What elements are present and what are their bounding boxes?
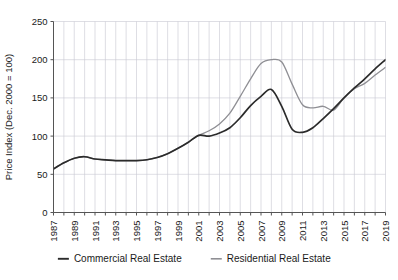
x-tick-label: 2001: [193, 221, 204, 242]
y-tick-label: 200: [32, 54, 48, 65]
y-tick-label: 250: [32, 16, 48, 27]
x-axis-ticks: 1987198919911993199519971999200120032005…: [48, 213, 391, 242]
x-tick-label: 2009: [276, 221, 287, 242]
x-tick-label: 2015: [339, 221, 350, 242]
y-tick-label: 100: [32, 131, 48, 142]
y-tick-label: 150: [32, 92, 48, 103]
y-axis-ticks: 050100150200250: [32, 16, 54, 218]
y-axis-title: Price Index (Dec. 2000 = 100): [3, 54, 14, 180]
x-tick-label: 2003: [214, 221, 225, 242]
y-tick-label: 50: [37, 169, 48, 180]
legend-item[interactable]: Residential Real Estate: [211, 253, 331, 264]
x-tick-label: 2007: [256, 221, 267, 242]
x-tick-label: 2019: [380, 221, 391, 242]
line-chart: 0501001502002501987198919911993199519971…: [0, 0, 398, 280]
legend-label: Residential Real Estate: [227, 253, 331, 264]
x-tick-label: 1987: [48, 221, 59, 242]
x-tick-label: 1999: [173, 221, 184, 242]
x-tick-label: 1993: [110, 221, 121, 242]
grid-lines: [54, 22, 386, 213]
x-tick-label: 2013: [318, 221, 329, 242]
chart-legend: Commercial Real EstateResidential Real E…: [58, 253, 331, 264]
legend-item[interactable]: Commercial Real Estate: [58, 253, 182, 264]
x-tick-label: 1989: [69, 221, 80, 242]
x-tick-label: 2011: [297, 221, 308, 241]
y-tick-label: 0: [42, 207, 47, 218]
x-tick-label: 1997: [152, 221, 163, 242]
legend-label: Commercial Real Estate: [74, 253, 182, 264]
x-tick-label: 1991: [90, 221, 101, 242]
chart-container: 0501001502002501987198919911993199519971…: [0, 0, 398, 280]
x-tick-label: 1995: [131, 221, 142, 242]
x-tick-label: 2005: [235, 221, 246, 242]
x-tick-label: 2017: [359, 221, 370, 242]
